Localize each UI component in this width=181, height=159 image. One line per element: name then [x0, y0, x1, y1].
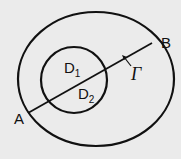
gamma-label: Γ — [130, 64, 142, 84]
region-d2-label: D2 — [78, 85, 95, 105]
diagram-canvas: A B Γ D1 D2 — [0, 0, 181, 159]
region-d1-label: D1 — [64, 59, 81, 79]
point-b-label: B — [161, 34, 171, 51]
inner-circle-boundary — [41, 47, 107, 113]
point-a-label: A — [14, 110, 24, 127]
